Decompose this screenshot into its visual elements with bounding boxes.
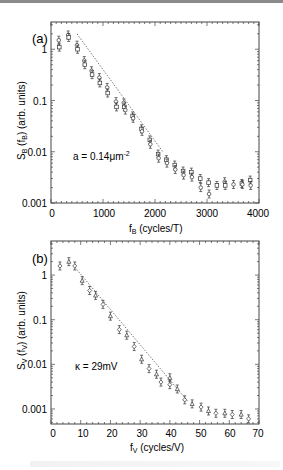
panel-a-y-axis-title: SB (fB) (arb. units) <box>16 81 28 160</box>
x-tick-label: 1000 <box>93 208 116 219</box>
data-point <box>88 287 92 295</box>
data-point <box>132 343 136 351</box>
data-point <box>223 409 227 417</box>
data-point <box>80 277 84 285</box>
data-point <box>101 300 105 308</box>
panel-a-x-tick-labels: 0 1000 2000 3000 4000 <box>49 208 269 219</box>
x-tick-label: 30 <box>136 428 148 439</box>
data-point <box>190 168 194 176</box>
x-tick-label: 20 <box>106 428 118 439</box>
data-point <box>58 262 62 270</box>
data-point <box>67 258 71 266</box>
y-tick-label: 1 <box>41 270 47 281</box>
data-point <box>108 312 112 320</box>
data-point <box>114 98 118 106</box>
data-point <box>190 400 194 408</box>
y-tick-label: 0.1 <box>33 315 47 326</box>
data-point <box>125 331 129 339</box>
y-tick-label: 0.1 <box>33 96 47 107</box>
data-point <box>159 378 163 386</box>
data-point <box>214 409 218 417</box>
x-tick-label: 0 <box>49 208 55 219</box>
panel-a: (a) 1 0.1 0.01 0.001 0 1000 2000 3000 40… <box>16 22 270 235</box>
y-tick-label: 1 <box>41 44 47 55</box>
y-tick-label: 0.001 <box>22 404 47 415</box>
data-point <box>115 103 119 111</box>
x-tick-label: 40 <box>165 428 177 439</box>
data-point <box>239 411 243 419</box>
data-point <box>106 89 110 97</box>
panel-a-ticks <box>51 22 259 203</box>
x-tick-label: 4000 <box>247 208 270 219</box>
data-point <box>207 179 211 187</box>
data-point <box>232 180 236 188</box>
y-tick-label: 0.001 <box>22 198 47 209</box>
data-point <box>154 370 158 378</box>
panel-b-frame <box>51 241 259 424</box>
panel-b-ticks <box>51 241 259 424</box>
data-point <box>199 403 203 411</box>
data-point <box>249 181 253 189</box>
x-tick-label: 3000 <box>196 208 219 219</box>
data-point <box>207 190 211 198</box>
data-point <box>190 173 194 181</box>
panel-a-x-axis-title: fB (cycles/T) <box>129 223 183 235</box>
x-tick-label: 2000 <box>144 208 167 219</box>
data-point <box>247 415 251 423</box>
panel-a-data-points <box>57 31 252 198</box>
panel-b-x-axis-title: fV (cycles/V) <box>130 442 184 454</box>
data-point <box>73 262 77 270</box>
data-point <box>206 407 210 415</box>
panel-a-fit-line <box>77 34 163 152</box>
data-point <box>215 181 219 189</box>
panel-a-frame <box>51 22 259 203</box>
y-tick-label: 0.01 <box>28 359 48 370</box>
data-point <box>230 411 234 419</box>
x-tick-label: 60 <box>224 428 236 439</box>
panel-b-annotation: κ = 29mV <box>75 361 118 372</box>
panel-b: (b) 1 0.1 0.01 0.001 0 10 20 30 40 50 60… <box>16 241 264 454</box>
data-point <box>198 175 202 183</box>
panel-b-x-tick-labels: 0 10 20 30 40 50 60 70 <box>50 428 264 439</box>
data-point <box>98 74 102 82</box>
x-tick-label: 10 <box>77 428 89 439</box>
figure-caption-cropped <box>30 461 280 467</box>
data-point <box>105 83 109 91</box>
data-point <box>94 291 98 299</box>
data-point <box>175 385 179 393</box>
data-point <box>140 355 144 363</box>
data-point <box>183 396 187 404</box>
panel-b-y-axis-title: SV (fV) (arb. units) <box>16 291 28 370</box>
data-point <box>147 365 151 373</box>
fit-line <box>77 34 163 152</box>
panel-b-label: (b) <box>32 251 48 266</box>
x-tick-label: 70 <box>252 428 264 439</box>
data-point <box>98 79 102 87</box>
data-point <box>199 184 203 192</box>
panel-a-annotation: a = 0.14μm-2 <box>73 150 130 162</box>
figure: (a) 1 0.1 0.01 0.001 0 1000 2000 3000 40… <box>0 0 283 470</box>
x-tick-label: 50 <box>195 428 207 439</box>
panel-b-data-points <box>58 258 251 423</box>
data-point <box>117 326 121 334</box>
x-tick-label: 0 <box>50 428 56 439</box>
y-tick-label: 0.01 <box>28 147 48 158</box>
data-point <box>248 176 252 184</box>
